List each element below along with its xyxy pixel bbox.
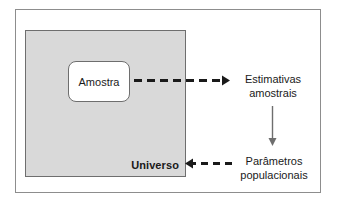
universe-label: Universo <box>131 159 179 171</box>
estimates-label-line1: Estimativas <box>232 72 314 86</box>
parameters-label-line1: Parâmetros <box>230 154 318 168</box>
diagram-canvas: Universo Amostra Estimativas amostrais P… <box>0 0 340 206</box>
universe-box: Universo <box>25 30 186 177</box>
sample-label: Amostra <box>79 76 120 88</box>
estimates-label-group: Estimativas amostrais <box>232 72 314 100</box>
sample-box: Amostra <box>68 61 130 102</box>
parameters-label-line2: populacionais <box>230 168 318 182</box>
estimates-label-line2: amostrais <box>232 86 314 100</box>
parameters-label-group: Parâmetros populacionais <box>230 154 318 182</box>
